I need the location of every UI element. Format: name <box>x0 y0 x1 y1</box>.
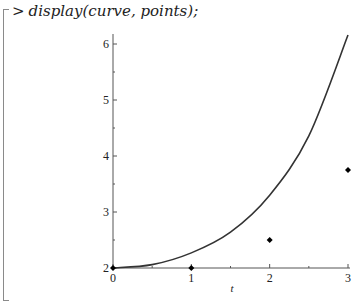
plot-area[interactable]: 012323456t <box>0 0 361 303</box>
y-tick-label: 6 <box>103 37 109 51</box>
x-tick-label: 0 <box>110 271 116 285</box>
y-tick-label: 4 <box>103 149 109 163</box>
data-point <box>267 237 273 243</box>
y-tick-label: 2 <box>103 261 109 275</box>
x-tick-label: 1 <box>188 271 194 285</box>
curve-series <box>113 35 348 268</box>
y-tick-label: 5 <box>103 93 109 107</box>
y-tick-label: 3 <box>103 205 109 219</box>
data-point <box>345 167 351 173</box>
x-tick-label: 3 <box>345 271 351 285</box>
x-axis-label: t <box>230 282 234 294</box>
x-tick-label: 2 <box>267 271 273 285</box>
